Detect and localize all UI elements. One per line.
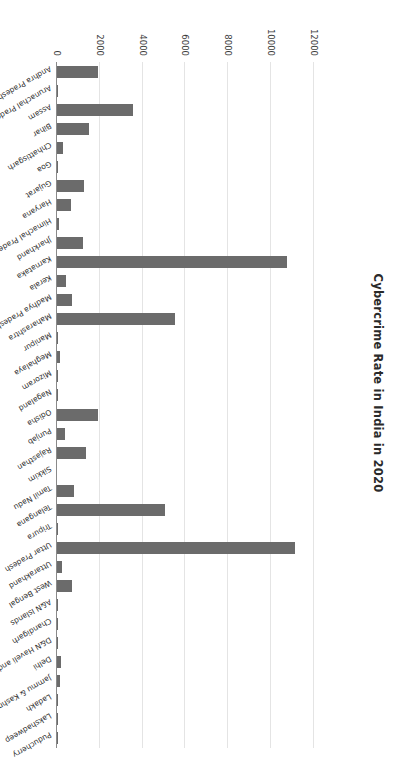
bar[interactable] bbox=[57, 199, 71, 211]
category-label: Bihar bbox=[31, 121, 53, 139]
bar[interactable] bbox=[57, 694, 58, 706]
bar[interactable] bbox=[57, 237, 83, 249]
bar[interactable] bbox=[57, 618, 58, 630]
bar[interactable] bbox=[57, 409, 98, 421]
bar[interactable] bbox=[57, 675, 60, 687]
bar[interactable] bbox=[57, 713, 58, 725]
category-label: Assam bbox=[27, 102, 53, 122]
bar[interactable] bbox=[57, 180, 84, 192]
y-tick-label: 6000 bbox=[181, 0, 191, 56]
category-label: Kerala bbox=[28, 273, 53, 293]
y-tick-label: 10000 bbox=[266, 0, 276, 56]
category-label: Delhi bbox=[32, 654, 53, 672]
bar[interactable] bbox=[57, 370, 58, 382]
bar[interactable] bbox=[57, 656, 61, 668]
y-tick-label: 8000 bbox=[223, 0, 233, 56]
bar[interactable] bbox=[57, 332, 58, 344]
bar[interactable] bbox=[57, 389, 58, 401]
chart-figure: Cybercrime Rate in India in 2020 0200040… bbox=[0, 0, 401, 766]
category-label: Punjab bbox=[26, 426, 53, 447]
bar-series: Andhra PradeshArunachal PradeshAssamBiha… bbox=[0, 62, 401, 748]
bar[interactable] bbox=[57, 351, 60, 363]
bar[interactable] bbox=[57, 447, 86, 459]
plot-area: 020004000600080001000012000 Andhra Prade… bbox=[0, 0, 401, 766]
bar[interactable] bbox=[57, 85, 58, 97]
bar[interactable] bbox=[57, 523, 58, 535]
bar[interactable] bbox=[57, 142, 63, 154]
bar[interactable] bbox=[57, 542, 295, 554]
category-label: Tripura bbox=[26, 521, 53, 542]
bar[interactable] bbox=[57, 161, 58, 173]
bar[interactable] bbox=[57, 313, 175, 325]
bar[interactable] bbox=[57, 504, 165, 516]
bar[interactable] bbox=[57, 485, 74, 497]
bar[interactable] bbox=[57, 123, 89, 135]
bar[interactable] bbox=[57, 637, 58, 649]
y-tick-label: 2000 bbox=[95, 0, 105, 56]
y-tick-label: 12000 bbox=[309, 0, 319, 56]
bar[interactable] bbox=[57, 218, 59, 230]
bar[interactable] bbox=[57, 428, 65, 440]
bar[interactable] bbox=[57, 580, 72, 592]
category-label: Sikkim bbox=[27, 464, 53, 484]
y-tick-label: 0 bbox=[52, 0, 62, 56]
bar[interactable] bbox=[57, 599, 58, 611]
bar[interactable] bbox=[57, 561, 62, 573]
bar[interactable] bbox=[57, 732, 58, 744]
bar[interactable] bbox=[57, 104, 133, 116]
category-label: Odisha bbox=[26, 407, 53, 428]
y-tick-label: 4000 bbox=[138, 0, 148, 56]
bar[interactable] bbox=[57, 66, 98, 78]
category-label: Goa bbox=[35, 159, 53, 174]
bar[interactable] bbox=[57, 294, 72, 306]
bar[interactable] bbox=[57, 275, 66, 287]
bar[interactable] bbox=[57, 256, 287, 268]
